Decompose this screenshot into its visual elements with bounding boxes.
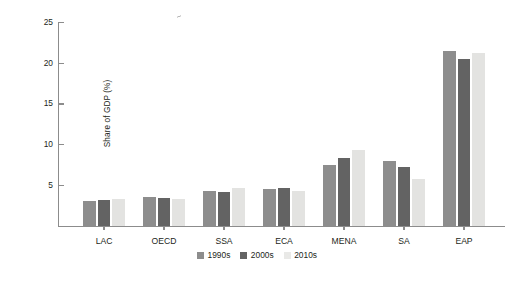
bar-eca-1990s	[263, 189, 276, 226]
x-axis-line	[58, 226, 505, 227]
y-tick-label-20: 20	[44, 58, 53, 68]
legend-item-2000s: 2000s	[240, 250, 273, 260]
x-tick-label-eap: EAP	[455, 236, 472, 246]
bar-eap-2000s	[458, 59, 471, 226]
x-tick-eca	[283, 226, 284, 231]
bars-ssa	[198, 22, 250, 226]
legend-label-1990s: 1990s	[208, 250, 231, 260]
y-tick-label-5: 5	[48, 180, 53, 190]
bar-eap-2010s	[472, 53, 485, 226]
y-axis-line	[58, 22, 59, 227]
x-tick-label-eca: ECA	[275, 236, 293, 246]
legend-swatch-1990s-icon	[197, 252, 204, 259]
bars-oecd	[138, 22, 190, 226]
y-tick-label-25: 25	[44, 17, 53, 27]
x-tick-sa	[403, 226, 404, 231]
bar-eca-2000s	[278, 188, 291, 225]
y-tick-label-15: 15	[44, 98, 53, 108]
x-tick-mena	[343, 226, 344, 231]
bar-sa-1990s	[383, 161, 396, 225]
x-tick-lac	[103, 226, 104, 231]
x-tick-ssa	[223, 226, 224, 231]
x-tick-label-oecd: OECD	[152, 236, 177, 246]
bar-ssa-1990s	[203, 191, 216, 225]
bars-eca	[258, 22, 310, 226]
legend-swatch-2000s-icon	[240, 252, 247, 259]
bars-sa	[378, 22, 430, 226]
bar-ssa-2010s	[232, 188, 245, 225]
bars-lac	[78, 22, 130, 226]
x-tick-label-mena: MENA	[332, 236, 357, 246]
bar-sa-2000s	[398, 167, 411, 226]
legend-label-2000s: 2000s	[251, 250, 274, 260]
bar-oecd-2000s	[158, 198, 171, 226]
plot-area: 25 20 15 10 5 LAC	[58, 22, 505, 227]
legend-label-2010s: 2010s	[294, 250, 317, 260]
bars-mena	[318, 22, 370, 226]
bar-oecd-1990s	[143, 197, 156, 226]
bar-ssa-2000s	[218, 192, 231, 225]
bar-mena-2010s	[352, 150, 365, 226]
bars-eap	[438, 22, 490, 226]
bar-group-sa: SA	[378, 22, 430, 226]
bar-lac-2010s	[112, 199, 125, 226]
bar-group-eap: EAP	[438, 22, 490, 226]
bar-group-lac: LAC	[78, 22, 130, 226]
x-tick-oecd	[163, 226, 164, 231]
legend-swatch-2010s-icon	[284, 252, 291, 259]
bar-mena-2000s	[338, 158, 351, 226]
bar-group-ssa: SSA	[198, 22, 250, 226]
x-tick-label-ssa: SSA	[215, 236, 232, 246]
bar-sa-2010s	[412, 179, 425, 225]
x-tick-label-sa: SA	[398, 236, 409, 246]
bar-group-oecd: OECD	[138, 22, 190, 226]
bar-lac-1990s	[83, 201, 96, 225]
y-tick-label-10: 10	[44, 139, 53, 149]
x-tick-eap	[463, 226, 464, 231]
scan-artifact	[177, 13, 181, 20]
bar-group-eca: ECA	[258, 22, 310, 226]
bar-eap-1990s	[443, 51, 456, 226]
bar-lac-2000s	[98, 200, 111, 226]
x-tick-label-lac: LAC	[96, 236, 113, 246]
bar-chart-figure: Share of GDP (%) 25 20 15 10 5	[0, 0, 514, 281]
legend-item-1990s: 1990s	[197, 250, 230, 260]
bar-oecd-2010s	[172, 199, 185, 226]
bar-mena-1990s	[323, 165, 336, 226]
bar-eca-2010s	[292, 191, 305, 226]
bar-group-mena: MENA	[318, 22, 370, 226]
chart-legend: 1990s 2000s 2010s	[0, 250, 514, 260]
legend-item-2010s: 2010s	[284, 250, 317, 260]
